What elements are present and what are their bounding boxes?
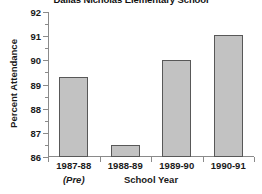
y-tick-major (43, 109, 48, 110)
bar-chart: Dallas Nicholas Elementary School Percen… (0, 0, 262, 194)
x-category-label: 1987-88 (56, 160, 91, 171)
y-tick-major (43, 36, 48, 37)
y-tick-label: 91 (30, 31, 41, 42)
x-category-label: 1990-91 (211, 160, 246, 171)
y-tick-minor (45, 97, 48, 98)
x-category-label: 1988-89 (108, 160, 143, 171)
y-tick-label: 89 (30, 79, 41, 90)
y-tick-minor (45, 24, 48, 25)
y-tick-label: 90 (30, 55, 41, 66)
plot-area: 86878889909192 (48, 12, 254, 157)
y-tick-label: 86 (30, 152, 41, 163)
y-tick-major (43, 60, 48, 61)
y-tick-label: 87 (30, 127, 41, 138)
x-axis-category-labels: 1987-881988-891989-901990-91 (48, 160, 254, 174)
chart-title: Dallas Nicholas Elementary School (0, 0, 262, 5)
bar (162, 60, 191, 157)
y-axis-line (48, 12, 49, 157)
bar (214, 35, 243, 157)
bar (59, 77, 88, 157)
y-tick-label: 88 (30, 103, 41, 114)
y-tick-minor (45, 145, 48, 146)
y-tick-label: 92 (30, 7, 41, 18)
y-tick-minor (45, 72, 48, 73)
y-tick-major (43, 85, 48, 86)
bar (111, 145, 140, 157)
x-category-label: 1989-90 (159, 160, 194, 171)
x-tick (254, 157, 255, 162)
y-tick-major (43, 133, 48, 134)
y-tick-minor (45, 121, 48, 122)
x-category-sublabel: (Pre) (63, 174, 85, 185)
y-tick-major (43, 12, 48, 13)
y-tick-minor (45, 48, 48, 49)
y-axis-title: Percent Attendance (8, 19, 19, 149)
